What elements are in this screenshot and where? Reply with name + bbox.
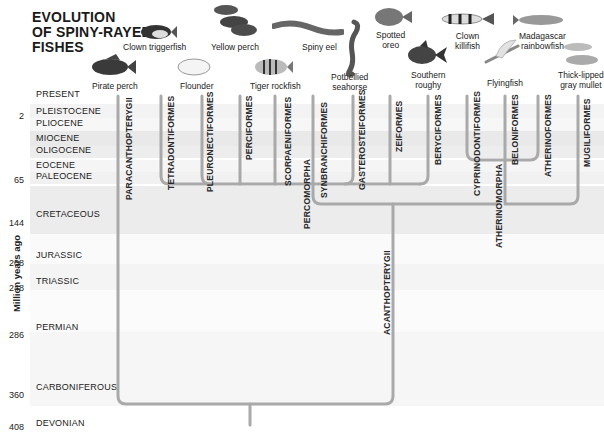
clade-synbranchiformes: SYNBRANCHIFORMES [319, 102, 329, 198]
spotted-oreo-icon [371, 6, 413, 28]
clade-percomorpha: PERCOMORPHA [302, 159, 312, 229]
pirate-perch-icon [88, 53, 138, 79]
potbellied-seahorse-icon [342, 18, 364, 78]
flounder-icon [176, 56, 214, 78]
caption-clown-triggerfish: Clown triggerfish [123, 42, 186, 52]
caption-potbellied-seahorse: Potbellied seahorse [331, 72, 368, 92]
clade-tetradontiformes: TETRADONTIFORMES [166, 96, 176, 190]
clade-cyprinodontiformes: CYPRINODONTIFORMES [472, 91, 482, 196]
clade-perciformes: PERCIFORMES [244, 95, 254, 160]
caption-yellow-perch: Yellow perch [211, 42, 259, 52]
caption-spotted-oreo: Spotted oreo [376, 30, 405, 50]
yellow-perch-icon [208, 2, 260, 40]
clade-pleuronectiformes: PLEURONECTIFORMES [205, 91, 215, 192]
caption-gray-mullet: Thick-lipped gray mullet [558, 70, 604, 90]
clade-scorpaeniformes: SCORPAENIFORMES [283, 97, 293, 186]
caption-pirate-perch: Pirate perch [92, 81, 138, 91]
clade-beloniformes: BELONIFORMES [510, 94, 520, 165]
caption-madagascar-rainbowfish: Madagascar rainbowfish [519, 31, 566, 51]
tiger-rockfish-icon [252, 55, 294, 79]
clade-gasterosteiformes: GASTEROSTEIFORMES [357, 89, 367, 190]
clade-paracanthopterygii: PARACANTHOPTERYGII [124, 97, 134, 200]
caption-spiny-eel: Spiny eel [302, 42, 337, 52]
caption-southern-roughy: Southern roughy [411, 70, 446, 90]
clade-beryciformes: BERYCIFORMES [433, 94, 443, 165]
caption-tiger-rockfish: Tiger rockfish [250, 81, 301, 91]
clade-mugiliformes: MUGILIFORMES [582, 98, 592, 167]
clown-triggerfish-icon [138, 23, 178, 41]
caption-flounder: Flounder [180, 81, 214, 91]
clade-atherinoformes: ATHERINOFORMES [543, 94, 553, 177]
clade-atherinomorpha: ATHERINOMORPHA [494, 164, 504, 248]
clown-killifish-icon [438, 10, 496, 28]
clade-zeiformes: ZEIFORMES [394, 101, 404, 152]
spiny-eel-icon [272, 20, 344, 38]
caption-clown-killifish: Clown killifish [455, 31, 480, 51]
southern-roughy-icon [404, 40, 448, 68]
flyingfish-icon [482, 38, 522, 66]
madagascar-rainbowfish-icon [513, 12, 569, 28]
caption-flyingfish: Flyingfish [487, 78, 523, 88]
clade-acanthopterygii: ACANTHOPTERYGII [382, 250, 392, 335]
